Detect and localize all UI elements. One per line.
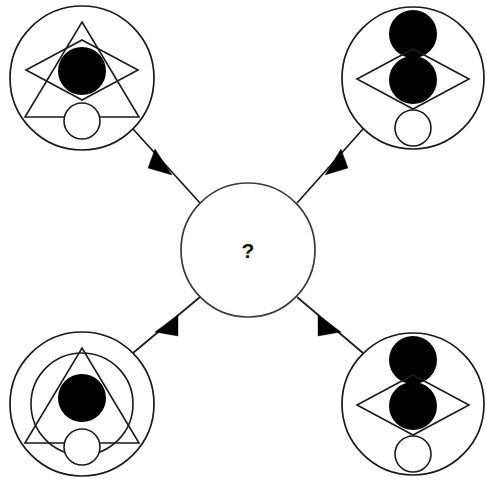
- arrow-top-right: [297, 129, 363, 203]
- arrow-top-left-line: [133, 129, 200, 203]
- top-right-open-circle-bottom: [395, 110, 431, 146]
- arrow-top-right-line: [297, 129, 363, 203]
- node-bottom-left[interactable]: [10, 332, 154, 476]
- node-bottom-right[interactable]: [342, 333, 484, 475]
- bottom-right-open-circle-bottom: [395, 436, 431, 472]
- arrow-top-left: [133, 129, 200, 203]
- node-top-left[interactable]: [10, 6, 154, 150]
- arrow-bottom-right-head: [318, 315, 341, 336]
- top-right-filled-circle-center: [389, 56, 437, 104]
- bottom-left-filled-circle-center: [58, 374, 106, 422]
- bottom-right-filled-circle-top: [389, 336, 437, 384]
- node-top-right[interactable]: [342, 7, 484, 149]
- puzzle-diagram: ?: [0, 0, 487, 482]
- arrow-top-left-head: [148, 149, 172, 175]
- center-node[interactable]: ?: [181, 183, 315, 317]
- arrow-bottom-left-head: [155, 315, 178, 336]
- arrow-bottom-left: [133, 297, 200, 353]
- top-right-filled-circle-top: [389, 10, 437, 58]
- top-left-open-circle-bottom: [64, 103, 100, 139]
- top-left-filled-circle-center: [58, 47, 106, 95]
- arrow-bottom-right: [297, 297, 363, 353]
- bottom-left-open-circle-bottom: [64, 429, 100, 465]
- puzzle-canvas: ?: [0, 0, 487, 482]
- arrow-top-right-head: [325, 149, 348, 175]
- center-question-mark: ?: [242, 239, 255, 262]
- bottom-right-filled-circle-center: [389, 382, 437, 430]
